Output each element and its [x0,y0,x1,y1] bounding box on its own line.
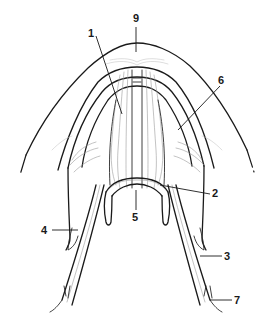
label-2: 2 [212,188,218,199]
lateral-fibers [52,136,222,172]
label-9: 9 [133,13,139,24]
nasal-anatomy-diagram [0,0,272,322]
label-5: 5 [132,212,138,223]
label-7: 7 [234,295,240,306]
outer-contour [20,43,254,175]
columella-fibers [106,59,168,188]
label-4: 4 [41,225,47,236]
label-1: 1 [88,28,94,39]
label-6: 6 [218,75,224,86]
label-3: 3 [224,251,230,262]
